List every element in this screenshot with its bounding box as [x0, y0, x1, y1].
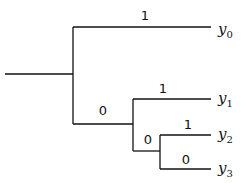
edge-label-node2-y2: 1	[184, 118, 192, 131]
code-tree-diagram: 1 1 0 1 0 0 y0 y1 y2 y3	[0, 0, 246, 183]
leaf-y2: y2	[218, 127, 233, 145]
edge-label-node1-node2: 0	[144, 133, 152, 146]
edge-label-node1-y1: 1	[159, 82, 167, 95]
leaf-y1: y1	[218, 91, 233, 109]
edge-label-root-y0: 1	[141, 9, 149, 22]
edge-label-node2-y3: 0	[182, 153, 190, 166]
tree-edges	[0, 0, 246, 183]
edge-label-root-node1: 0	[99, 104, 107, 117]
leaf-y0: y0	[218, 22, 233, 40]
leaf-y3: y3	[218, 161, 233, 179]
